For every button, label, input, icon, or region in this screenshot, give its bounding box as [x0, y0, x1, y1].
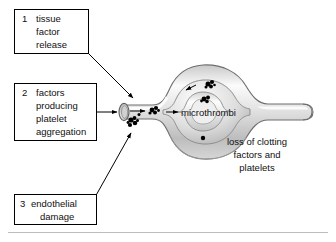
callout-1-line-1: tissue: [36, 13, 61, 24]
callout-2-line-3: platelet: [36, 113, 67, 124]
callout-2-number: 2: [22, 87, 27, 98]
vessel-outlet-highlight: [257, 107, 308, 110]
callout-3-line-1: endothelial: [31, 198, 77, 209]
callout-2-line-1: factors: [36, 87, 65, 98]
vessel-inlet-lumen-cap: [122, 106, 128, 119]
callout-3-leader: [97, 133, 132, 195]
loss-line-3: platelets: [239, 162, 275, 173]
callout-2[interactable]: 2 factors producing platelet aggregation: [15, 84, 118, 141]
callout-1-number: 1: [22, 13, 27, 24]
callout-3-number: 3: [20, 198, 25, 209]
platelet-lower-loop: [201, 136, 205, 140]
callout-2-line-4: aggregation: [36, 126, 86, 137]
callout-1-line-2: factor: [36, 26, 60, 37]
callout-2-line-2: producing: [36, 100, 78, 111]
platelet-free-inlet: [138, 113, 141, 116]
callout-3[interactable]: 3 endothelial damage: [15, 133, 132, 225]
callout-1-line-3: release: [36, 39, 67, 50]
loss-line-1: loss of clotting: [227, 136, 287, 147]
label-microthrombi: microthrombi: [181, 107, 236, 118]
diagram-svg: 1 tissue factor release 2 factors produc…: [0, 0, 336, 242]
label-loss-of-clotting: loss of clotting factors and platelets: [227, 136, 287, 173]
loss-line-2: factors and: [234, 149, 281, 160]
callout-3-line-2: damage: [40, 211, 74, 222]
figure-canvas: 1 tissue factor release 2 factors produc…: [0, 0, 336, 242]
